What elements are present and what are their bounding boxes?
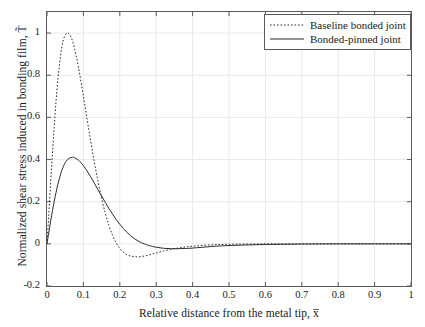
x-tick-label: 0.4 xyxy=(178,289,208,300)
x-tick-label: 0 xyxy=(32,289,62,300)
legend-item-baseline-bonded-joint: Baseline bonded joint xyxy=(269,18,406,32)
y-tick-label: 0.8 xyxy=(6,68,40,79)
x-tick-label: 0.2 xyxy=(105,289,135,300)
y-tick-label: 0.2 xyxy=(6,195,40,206)
y-tick-label: 0.6 xyxy=(6,110,40,121)
plot-area xyxy=(46,11,412,287)
x-tick-label: 0.1 xyxy=(68,289,98,300)
x-tick-label: 0.5 xyxy=(214,289,244,300)
x-tick-label: 0.8 xyxy=(323,289,353,300)
legend-swatch-dotted-line xyxy=(269,19,305,31)
x-tick-label: 0.7 xyxy=(287,289,317,300)
gridlines xyxy=(47,12,411,286)
x-axis-label: Relative distance from the metal tip, x̅ xyxy=(46,307,412,319)
legend-swatch-solid-line xyxy=(269,33,305,45)
y-tick-label: 0 xyxy=(6,237,40,248)
y-tick-label: 1 xyxy=(6,26,40,37)
figure: Normalized shear stress induced in bondi… xyxy=(0,0,425,327)
legend-item-bonded-pinned-joint: Bonded-pinned joint xyxy=(269,32,406,46)
y-tick-label: 0.4 xyxy=(6,153,40,164)
x-tick-label: 0.6 xyxy=(250,289,280,300)
legend: Baseline bonded joint Bonded-pinned join… xyxy=(264,14,411,50)
plot-svg xyxy=(47,12,411,286)
legend-label-baseline-bonded-joint: Baseline bonded joint xyxy=(310,19,406,31)
y-tick-label: -0.2 xyxy=(6,279,40,290)
x-tick-label: 0.3 xyxy=(141,289,171,300)
legend-label-bonded-pinned-joint: Bonded-pinned joint xyxy=(310,33,401,45)
x-tick-label: 1 xyxy=(396,289,425,300)
x-tick-label: 0.9 xyxy=(360,289,390,300)
